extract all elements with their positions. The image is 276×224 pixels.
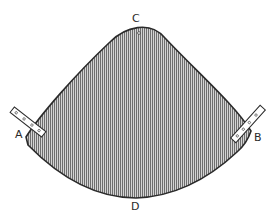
label-d: D <box>131 200 139 213</box>
label-b: B <box>254 131 262 144</box>
pattern-diagram: C A B D <box>0 0 276 224</box>
label-a: A <box>15 128 23 141</box>
label-c: C <box>132 12 140 25</box>
apex-hole <box>138 32 141 35</box>
hatched-pattern-piece <box>26 27 251 198</box>
